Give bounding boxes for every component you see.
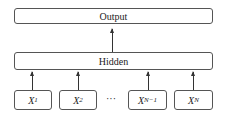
arrow-xn bbox=[193, 72, 194, 90]
arrow-xn-1 bbox=[148, 72, 149, 90]
input-box-x1: X1 bbox=[14, 90, 52, 110]
output-box: Output bbox=[14, 8, 213, 24]
arrow-hidden-to-output bbox=[112, 29, 113, 52]
hidden-label: Hidden bbox=[99, 56, 128, 67]
input-box-xn-1: XN−1 bbox=[128, 90, 167, 110]
arrow-x1 bbox=[32, 72, 33, 90]
arrow-x2 bbox=[78, 72, 79, 90]
hidden-box: Hidden bbox=[14, 52, 213, 70]
input-box-x2: X2 bbox=[59, 90, 97, 110]
output-label: Output bbox=[100, 11, 128, 22]
input-box-xn: XN bbox=[174, 90, 213, 110]
ellipsis: ··· bbox=[106, 93, 116, 104]
